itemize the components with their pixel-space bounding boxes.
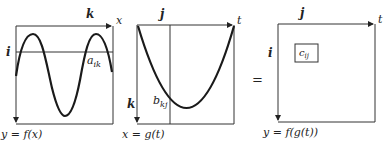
panel-fg: j t i cij y = f(g(t))	[262, 6, 383, 139]
equals-sign: =	[252, 72, 263, 87]
caption-g: x = g(t)	[122, 128, 164, 141]
axis-label-i: i	[6, 45, 11, 59]
sine-curve	[16, 34, 112, 116]
axis-label-k: k	[86, 7, 94, 21]
axis-label-j: j	[298, 6, 305, 20]
element-label-b: bkj	[153, 94, 168, 109]
caption-fg: y = f(g(t))	[262, 126, 318, 139]
element-label-a: aik	[87, 54, 101, 69]
axis-label-k: k	[127, 97, 135, 111]
panel-f: k x i aik y = f(x)	[0, 7, 123, 141]
element-label-c: cij	[299, 47, 310, 60]
axis-label-i: i	[268, 46, 273, 60]
axis-end-label-t: t	[378, 13, 383, 26]
panel-g: j t k bkj x = g(t)	[122, 7, 242, 141]
axis-end-label-t: t	[237, 14, 242, 27]
axis-end-label-x: x	[116, 14, 123, 27]
axis-label-j: j	[158, 7, 165, 21]
caption-f: y = f(x)	[0, 128, 42, 141]
composition-diagram: k x i aik y = f(x) j t k bkj x = g(t) = …	[0, 0, 384, 144]
